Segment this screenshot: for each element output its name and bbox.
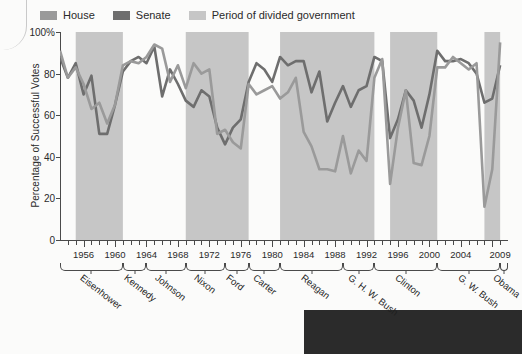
x-axis-tick-labels: 1956196019641968197219761980198419881992… bbox=[60, 249, 508, 261]
x-axis-tick-label: 1972 bbox=[199, 249, 220, 260]
x-axis-tick bbox=[84, 241, 85, 247]
legend-item-0: House bbox=[40, 9, 95, 21]
legend-swatch-icon bbox=[189, 11, 206, 20]
x-axis-tick bbox=[201, 241, 202, 245]
x-axis-tick bbox=[351, 241, 352, 245]
legend-swatch-icon bbox=[113, 11, 130, 20]
x-axis-tick-label: 2000 bbox=[419, 249, 440, 260]
president-label: Eisenhower bbox=[79, 272, 125, 311]
x-axis-tick bbox=[131, 241, 132, 245]
x-axis-tick bbox=[327, 241, 328, 245]
y-axis-tick-label: 80 bbox=[44, 68, 55, 79]
president-labels: EisenhowerKennedyJohnsonNixonFordCarterR… bbox=[60, 272, 508, 350]
x-axis-tick bbox=[437, 241, 438, 245]
y-axis-tick bbox=[56, 32, 60, 33]
y-axis-tick-label: 40 bbox=[44, 151, 55, 162]
legend-item-1: Senate bbox=[113, 9, 171, 21]
x-axis-tick-label: 1960 bbox=[104, 249, 125, 260]
x-axis-tick bbox=[500, 241, 501, 245]
x-axis-tick bbox=[382, 241, 383, 245]
x-axis-tick bbox=[335, 241, 336, 247]
legend-label: House bbox=[63, 9, 95, 21]
y-axis-tick bbox=[56, 198, 60, 199]
x-axis-tick-label: 1992 bbox=[356, 249, 377, 260]
plot-area: 020406080100% bbox=[60, 32, 508, 240]
x-axis bbox=[60, 240, 508, 248]
x-axis-tick-label: 1984 bbox=[293, 249, 314, 260]
x-axis-tick bbox=[225, 241, 226, 245]
x-axis-tick bbox=[162, 241, 163, 245]
x-axis-tick bbox=[209, 241, 210, 247]
x-axis-tick bbox=[469, 241, 470, 245]
x-axis-tick bbox=[422, 241, 423, 245]
x-axis-tick-label: 2009 bbox=[490, 249, 511, 260]
x-axis-tick bbox=[186, 241, 187, 245]
y-axis-tick-label: 100% bbox=[29, 27, 55, 38]
x-axis-tick-label: 1996 bbox=[387, 249, 408, 260]
x-axis-tick bbox=[217, 241, 218, 245]
legend-item-2: Period of divided government bbox=[189, 9, 355, 21]
president-label: Clinton bbox=[393, 272, 423, 299]
x-axis-tick bbox=[264, 241, 265, 245]
x-axis-tick bbox=[256, 241, 257, 245]
x-axis-tick bbox=[296, 241, 297, 245]
president-label: Kennedy bbox=[122, 272, 158, 304]
x-axis-tick bbox=[453, 241, 454, 245]
president-label: Ford bbox=[224, 272, 246, 293]
x-axis-tick bbox=[241, 241, 242, 247]
x-axis-tick bbox=[288, 241, 289, 245]
legend-label: Period of divided government bbox=[212, 9, 355, 21]
y-axis-title: Percentage of Successful Votes bbox=[30, 51, 41, 221]
x-axis-tick bbox=[280, 241, 281, 245]
president-label: G. H. W. Bush bbox=[346, 272, 400, 318]
legend-label: Senate bbox=[136, 9, 171, 21]
president-label: Nixon bbox=[193, 272, 219, 296]
x-axis-tick bbox=[272, 241, 273, 247]
x-axis-tick bbox=[194, 241, 195, 245]
x-axis-tick bbox=[249, 241, 250, 245]
x-axis-tick bbox=[312, 241, 313, 245]
y-axis-tick-label: 60 bbox=[44, 110, 55, 121]
x-axis-tick bbox=[115, 241, 116, 247]
x-axis-tick bbox=[367, 241, 368, 247]
x-axis-tick bbox=[414, 241, 415, 245]
x-axis-tick bbox=[107, 241, 108, 245]
x-axis-tick bbox=[390, 241, 391, 245]
x-axis-tick bbox=[154, 241, 155, 245]
y-axis-tick bbox=[56, 157, 60, 158]
x-axis-tick bbox=[398, 241, 399, 247]
x-axis-tick bbox=[445, 241, 446, 245]
y-axis-tick-label: 0 bbox=[49, 235, 55, 246]
chart-svg bbox=[60, 32, 508, 240]
x-axis-tick bbox=[429, 241, 430, 247]
x-axis-tick bbox=[319, 241, 320, 245]
x-axis-tick bbox=[99, 241, 100, 245]
x-axis-tick bbox=[406, 241, 407, 245]
president-label: Johnson bbox=[153, 272, 188, 303]
x-axis-tick bbox=[304, 241, 305, 247]
x-axis-tick bbox=[461, 241, 462, 247]
x-axis-tick bbox=[146, 241, 147, 247]
x-axis-tick bbox=[492, 241, 493, 247]
x-axis-tick-label: 1968 bbox=[167, 249, 188, 260]
x-axis-tick bbox=[484, 241, 485, 245]
x-axis-tick bbox=[477, 241, 478, 245]
x-axis-tick bbox=[374, 241, 375, 245]
chart-legend: HouseSenatePeriod of divided government bbox=[40, 8, 373, 22]
x-axis-tick bbox=[91, 241, 92, 245]
x-axis-tick bbox=[178, 241, 179, 247]
x-axis-tick bbox=[359, 241, 360, 245]
y-axis-tick-label: 20 bbox=[44, 193, 55, 204]
x-axis-tick bbox=[233, 241, 234, 245]
x-axis-tick-label: 1980 bbox=[262, 249, 283, 260]
y-axis-tick bbox=[56, 115, 60, 116]
x-axis-tick bbox=[170, 241, 171, 245]
x-axis-line bbox=[60, 240, 508, 241]
x-axis-tick-label: 1956 bbox=[73, 249, 94, 260]
legend-swatch-icon bbox=[40, 11, 57, 20]
x-axis-tick-label: 1964 bbox=[136, 249, 157, 260]
x-axis-tick-label: 1988 bbox=[325, 249, 346, 260]
x-axis-tick-label: 2004 bbox=[450, 249, 471, 260]
x-axis-tick bbox=[76, 241, 77, 245]
president-label: Carter bbox=[252, 272, 280, 297]
